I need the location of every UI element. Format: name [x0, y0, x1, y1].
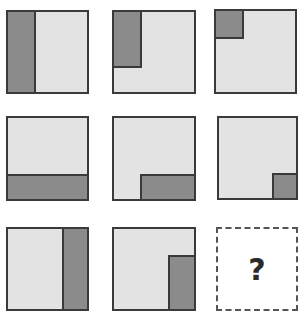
- answer-cell[interactable]: ?: [216, 227, 298, 311]
- shaded-region: [272, 173, 298, 200]
- shaded-region: [62, 227, 89, 311]
- question-mark: ?: [248, 252, 265, 287]
- puzzle-cell-3: [214, 9, 297, 94]
- shaded-region: [214, 9, 244, 39]
- puzzle-cell-8: [112, 227, 196, 311]
- puzzle-cell-6: [217, 116, 298, 200]
- puzzle-cell-1: [6, 10, 89, 94]
- shaded-region: [112, 10, 142, 68]
- shaded-region: [6, 10, 36, 94]
- shaded-region: [140, 174, 196, 201]
- puzzle-cell-5: [112, 116, 196, 201]
- shaded-region: [168, 255, 196, 311]
- shaded-region: [6, 174, 89, 201]
- puzzle-cell-7: [6, 227, 89, 311]
- puzzle-cell-4: [6, 116, 89, 201]
- puzzle-cell-2: [112, 10, 196, 94]
